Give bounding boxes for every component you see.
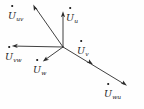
label-vw-symbol: U <box>5 51 13 62</box>
label-uv-subscript: uv <box>16 15 23 22</box>
label-vector-vw: Uvw <box>5 52 22 62</box>
label-wu-dot-icon <box>107 83 109 85</box>
label-vector-v: Uv <box>77 46 88 56</box>
label-vector-u: Uu <box>66 13 78 23</box>
label-vector-uv: Uuv <box>8 11 23 21</box>
label-wu-symbol: U <box>104 88 112 99</box>
label-u-subscript: u <box>74 17 78 24</box>
label-w-symbol: U <box>33 64 41 75</box>
label-v-subscript: v <box>85 50 88 57</box>
label-uv-symbol: U <box>8 10 16 21</box>
label-vector-w: Uw <box>33 65 46 75</box>
label-vw-subscript: vw <box>13 56 22 63</box>
label-u-symbol: U <box>66 12 74 23</box>
label-uv-dot-icon <box>11 5 13 7</box>
vector-w <box>43 47 63 61</box>
vector-wu-shaft <box>63 47 124 84</box>
label-v-dot-icon <box>80 40 82 42</box>
label-w-dot-icon <box>36 59 38 61</box>
phasor-diagram: Uuv Uu Uvw Uw Uv Uwu <box>0 0 144 109</box>
vector-uv-shaft <box>36 8 63 47</box>
vector-w-shaft <box>46 47 63 59</box>
vector-u <box>61 11 65 47</box>
label-v-symbol: U <box>77 45 85 56</box>
label-w-subscript: w <box>41 69 46 76</box>
vector-vw-shaft <box>15 46 63 47</box>
vector-vw <box>12 44 63 48</box>
label-wu-subscript: wu <box>112 93 121 100</box>
vector-wu <box>63 47 127 86</box>
label-u-dot-icon <box>69 7 71 9</box>
vector-uv <box>33 5 63 47</box>
label-vector-wu: Uwu <box>104 89 121 99</box>
label-vw-dot-icon <box>8 46 10 48</box>
